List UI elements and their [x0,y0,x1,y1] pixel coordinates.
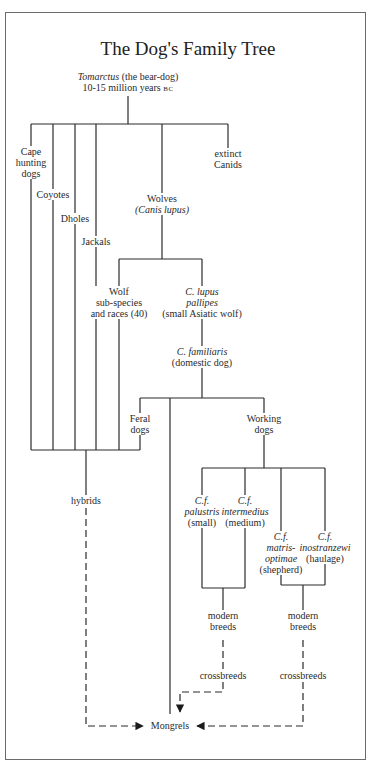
node-jackals: Jackals [81,236,112,247]
node-wolves: Wolves (Canis lupus) [134,193,190,215]
node-c-familiaris: C. familiaris (domestic dog) [171,346,233,368]
node-modern-breeds-left: modern breeds [207,610,240,632]
label-line: extinct [214,148,242,159]
tree-connectors [0,0,377,775]
label-line: (shepherd) [260,564,303,575]
label-line: (medium) [221,517,268,528]
label-line: sub-species [91,297,148,308]
label-line: hunting [16,157,47,168]
node-crossbreeds-right: crossbreeds [279,670,328,681]
node-wolf-subspecies: Wolf sub-species and races (40) [90,286,149,319]
label-line: Wolf [91,286,148,297]
label-line: (Canis lupus) [135,204,189,215]
node-working-dogs: Working dogs [246,413,283,435]
label-line: inostranzewi [299,542,350,553]
node-cape-hunting-dogs: Cape hunting dogs [15,146,48,179]
tomarctus-desc: (the bear-dog) [122,71,179,82]
label-line: matris- [267,542,296,553]
label-line: C.f. [318,531,332,542]
label-line: (domestic dog) [172,357,232,368]
label-line: crossbreeds [280,670,327,681]
label-line: Wolves [135,193,189,204]
node-crossbreeds-left: crossbreeds [199,670,248,681]
label-line: crossbreeds [200,670,247,681]
node-hybrids: hybrids [70,495,102,506]
node-mongrels: Mongrels [150,720,190,731]
node-cf-inostranzewi: C.f. inostranzewi (haulage) [298,531,351,564]
label-line: breeds [208,621,239,632]
label-line: C. lupus [185,286,218,297]
label-line: (small Asiatic wolf) [162,308,241,319]
label-line: and races (40) [91,308,148,319]
node-cf-matris-optimae: C.f. matris- optimae (shepherd) [259,531,304,575]
label-line: Feral [130,413,151,424]
label-line: Cape [16,146,47,157]
label-line: breeds [288,621,319,632]
label-line: Canids [214,159,242,170]
label-line: Working [247,413,282,424]
tomarctus-age: 10-15 million years [82,82,160,93]
label-line: dogs [130,424,151,435]
node-cf-palustris: C.f. palustris (small) [183,495,220,528]
node-coyotes: Coyotes [36,189,71,200]
label-line: hybrids [71,495,101,506]
label-line: pallipes [186,297,218,308]
label-line: (haulage) [299,553,350,564]
label-line: (small) [184,517,219,528]
node-tomarctus: Tomarctus (the bear-dog) 10-15 million y… [77,71,180,95]
node-feral-dogs: Feral dogs [129,413,152,435]
label-line: optimae [265,553,297,564]
node-dholes: Dholes [60,213,90,224]
label-line: Coyotes [37,189,70,200]
label-line: intermedius [221,506,268,517]
label-line: Mongrels [151,720,189,731]
label-line: C. familiaris [177,346,228,357]
diagram-title: The Dog's Family Tree [101,38,276,60]
label-line: modern [208,610,239,621]
node-modern-breeds-right: modern breeds [287,610,320,632]
label-line: dogs [247,424,282,435]
label-line: C.f. [274,531,288,542]
node-extinct-canids: extinct Canids [213,148,243,170]
label-line: C.f. [238,495,252,506]
node-cf-intermedius: C.f. intermedius (medium) [220,495,269,528]
label-line: modern [288,610,319,621]
tomarctus-name: Tomarctus [78,71,120,82]
label-line: dogs [16,168,47,179]
tomarctus-era: BC [163,85,173,93]
label-line: Jackals [82,236,111,247]
label-line: C.f. [195,495,209,506]
label-line: Dholes [61,213,89,224]
node-c-lupus-pallipes: C. lupus pallipes (small Asiatic wolf) [161,286,242,319]
label-line: palustris [184,506,219,517]
